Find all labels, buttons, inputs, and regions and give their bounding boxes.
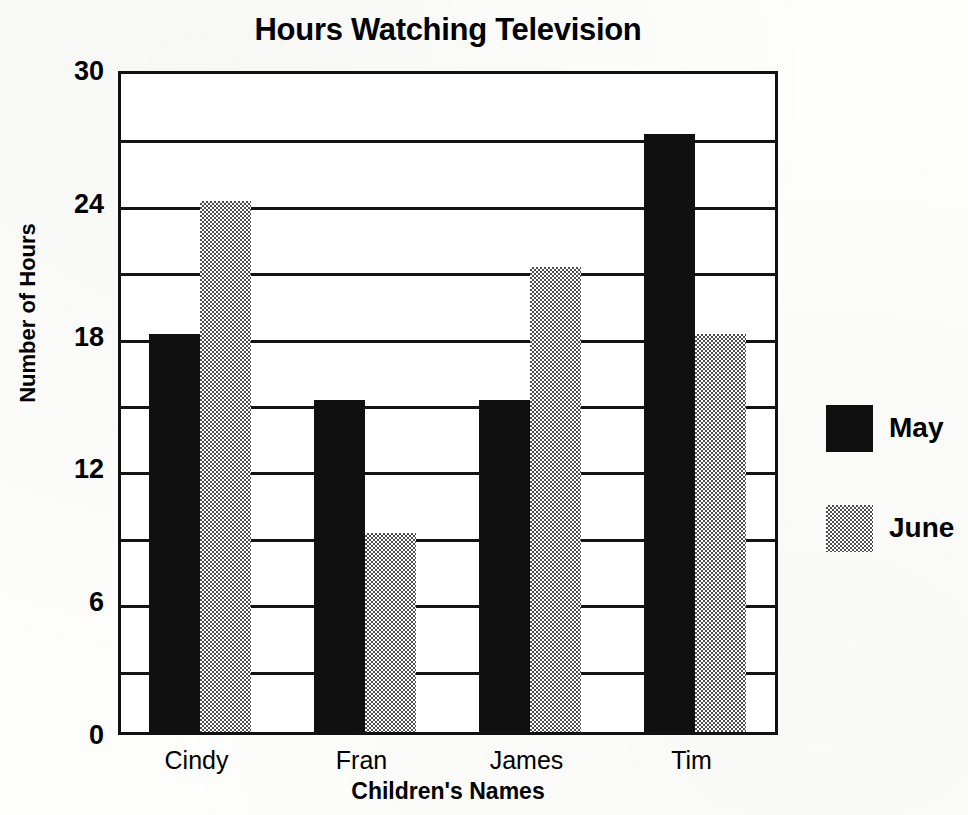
bar-tim-may[interactable]: [644, 134, 695, 732]
y-tick-label: 30: [8, 58, 104, 85]
x-axis-tick-labels: CindyFranJamesTim: [118, 745, 778, 779]
x-tick-label-fran: Fran: [336, 745, 387, 775]
bar-cindy-may[interactable]: [149, 334, 200, 732]
legend-item-may[interactable]: May: [826, 404, 966, 452]
legend-label-june: June: [889, 512, 954, 544]
x-tick-label-james: James: [490, 745, 564, 775]
legend-item-june[interactable]: June: [826, 504, 966, 552]
y-tick-label: 12: [8, 456, 104, 483]
legend-label-may: May: [889, 412, 943, 444]
legend-swatch-june: [826, 505, 873, 552]
bar-james-may[interactable]: [479, 400, 530, 732]
bar-fran-may[interactable]: [314, 400, 365, 732]
bar-james-june[interactable]: [530, 267, 581, 732]
x-axis-title: Children's Names: [118, 778, 778, 805]
bar-tim-june[interactable]: [695, 334, 746, 732]
x-tick-label-tim: Tim: [671, 745, 712, 775]
y-tick-label: 0: [8, 722, 104, 749]
legend-swatch-may: [826, 405, 873, 452]
plot-area: [118, 71, 778, 735]
bar-fran-june[interactable]: [365, 533, 416, 732]
bar-cindy-june[interactable]: [200, 201, 251, 732]
legend: MayJune: [826, 404, 966, 604]
bars-layer: [121, 74, 775, 732]
y-axis-title: Number of Hours: [15, 203, 41, 423]
chart-title: Hours Watching Television: [118, 8, 778, 52]
x-tick-label-cindy: Cindy: [165, 745, 229, 775]
y-tick-label: 6: [8, 589, 104, 616]
